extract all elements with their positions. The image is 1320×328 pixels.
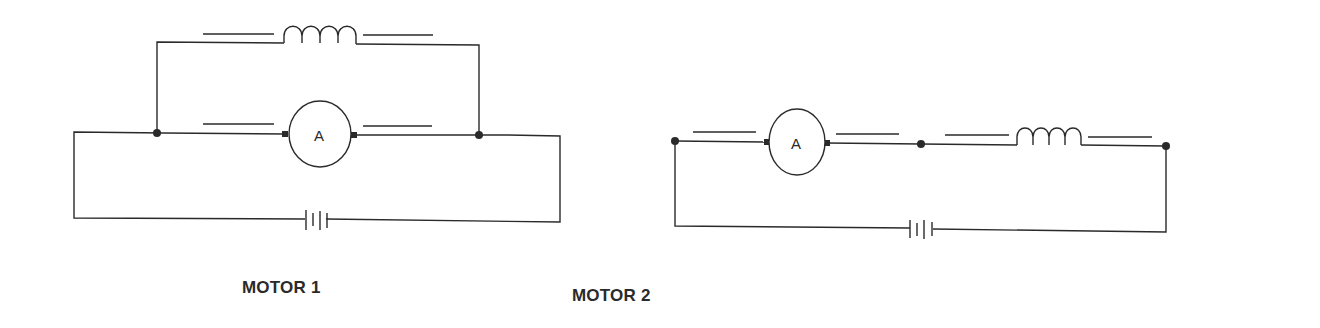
- motor-2-field-coil-icon: [1017, 128, 1081, 145]
- motor-2-wire-b: [827, 143, 921, 144]
- motor-1-left-wire: [74, 132, 305, 219]
- motor-1-field-branch-right: [356, 44, 479, 135]
- motor-1-brush-right: [351, 132, 357, 138]
- motor-2-battery-icon: [910, 220, 932, 239]
- motor-1-junction-right: [475, 131, 483, 139]
- motor-2-armature-letter: A: [791, 135, 801, 152]
- motor-2-return-wire-right: [933, 146, 1166, 232]
- motor-2-junction-middle: [917, 140, 925, 148]
- motor-2-wire-d: [1081, 145, 1166, 146]
- motor-2-wire-a: [675, 141, 767, 142]
- motor-2-caption: MOTOR 2: [572, 286, 651, 306]
- motor-1-circuit: A: [74, 26, 560, 230]
- motor-1-caption: MOTOR 1: [242, 278, 321, 298]
- motor-2-circuit: A: [671, 109, 1170, 239]
- motor-1-right-wire: [326, 135, 560, 222]
- motor-2-junction-left: [671, 137, 679, 145]
- motor-1-junction-left: [153, 129, 161, 137]
- motor-1-brush-left: [282, 131, 288, 137]
- motor-1-armature-wire-left: [164, 133, 286, 134]
- motor-1-armature-letter: A: [314, 127, 324, 144]
- motor-1-battery-icon: [306, 210, 327, 230]
- motor-2-armature-icon: A: [769, 109, 825, 175]
- circuit-diagrams: A A: [0, 0, 1320, 328]
- motor-1-armature-icon: A: [289, 101, 351, 167]
- motor-1-field-branch: [157, 42, 284, 133]
- motor-1-field-coil-icon: [284, 26, 356, 44]
- motor-2-wire-c: [921, 144, 1017, 145]
- motor-2-junction-right: [1162, 142, 1170, 150]
